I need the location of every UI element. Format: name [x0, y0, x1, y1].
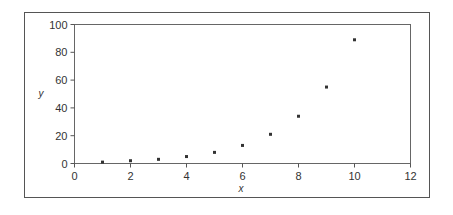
x-tick-label: 4 [183, 170, 189, 182]
x-tick-label: 8 [295, 170, 301, 182]
data-point-marker [353, 38, 356, 41]
x-axis-title: x [238, 183, 245, 194]
x-tick-label: 12 [404, 170, 416, 182]
y-tick-label: 80 [55, 46, 67, 58]
y-tick-label: 100 [49, 19, 67, 31]
data-point-marker [101, 161, 104, 164]
y-tick-label: 60 [55, 74, 67, 86]
data-point-marker [129, 159, 132, 162]
data-point-marker [157, 158, 160, 161]
x-tick-label: 6 [239, 170, 245, 182]
data-point-marker [185, 155, 188, 158]
chart-outer-frame [25, 13, 430, 198]
x-tick-label: 2 [127, 170, 133, 182]
y-tick-label: 0 [61, 158, 67, 170]
y-tick-label: 40 [55, 102, 67, 114]
x-tick-label: 10 [348, 170, 360, 182]
data-point-marker [241, 144, 244, 147]
data-point-marker [213, 151, 216, 154]
scatter-chart: 020406080100 024681012 x y [0, 0, 453, 215]
data-point-marker [325, 86, 328, 89]
y-tick-label: 20 [55, 130, 67, 142]
data-point-marker [297, 115, 300, 118]
x-tick-label: 0 [71, 170, 77, 182]
data-point-marker [269, 133, 272, 136]
y-axis-title: y [38, 88, 45, 99]
